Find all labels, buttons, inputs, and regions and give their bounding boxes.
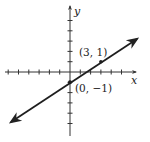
coordinate-plane: y x (3, 1) (0, −1) (0, 0, 150, 142)
x-axis-label: x (131, 74, 138, 87)
y-axis-label: y (73, 5, 81, 18)
point-label-0-neg1: (0, −1) (75, 82, 112, 94)
point-label-3-1: (3, 1) (79, 46, 107, 58)
y-axis (68, 6, 73, 136)
point-0-neg1 (68, 80, 72, 84)
line-series (11, 39, 137, 122)
point-3-1 (99, 60, 103, 64)
